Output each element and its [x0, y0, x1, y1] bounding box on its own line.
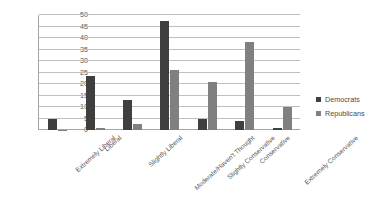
bar[interactable]	[273, 128, 282, 130]
bar-group	[76, 15, 113, 130]
bar[interactable]	[245, 42, 254, 130]
bar-group	[189, 15, 226, 130]
bar[interactable]	[208, 82, 217, 130]
x-axis-category-label: Slightly Liberal	[147, 134, 184, 168]
bar[interactable]	[48, 119, 57, 130]
bar[interactable]	[123, 100, 132, 130]
bar-group	[114, 15, 151, 130]
x-axis-category-label: Extremely Conservative	[303, 134, 359, 186]
bar[interactable]	[86, 76, 95, 130]
bar-group	[226, 15, 263, 130]
legend-item-label: Republicans	[325, 110, 365, 117]
bar[interactable]	[170, 70, 179, 130]
legend-swatch-icon	[316, 97, 321, 102]
x-axis-category-label: Liberal	[103, 134, 122, 152]
plot-area	[38, 15, 300, 130]
bar[interactable]	[283, 107, 292, 130]
bar[interactable]	[96, 128, 105, 130]
legend-swatch-icon	[316, 111, 321, 116]
bar-chart: 05101520253035404550 Extremely LiberalLi…	[0, 0, 392, 223]
bar-group	[39, 15, 76, 130]
legend-item-republicans[interactable]: Republicans	[316, 110, 365, 117]
legend-item-democrats[interactable]: Democrats	[316, 96, 365, 103]
bar[interactable]	[235, 121, 244, 130]
bar-group	[264, 15, 301, 130]
legend-item-label: Democrats	[325, 96, 360, 103]
bar-group	[151, 15, 188, 130]
bar[interactable]	[198, 119, 207, 130]
bar[interactable]	[160, 21, 169, 130]
bar[interactable]	[133, 124, 142, 130]
chart-legend: Democrats Republicans	[316, 96, 365, 117]
